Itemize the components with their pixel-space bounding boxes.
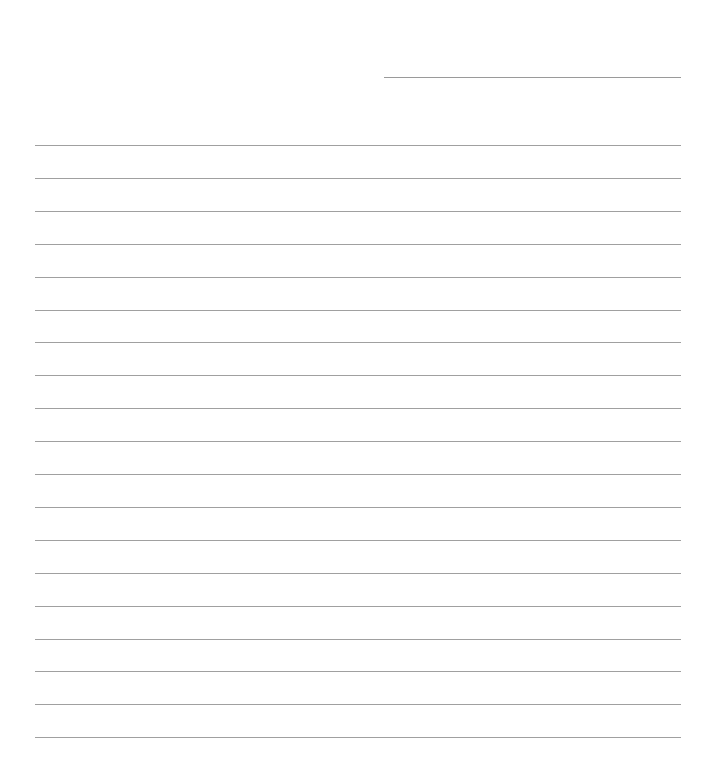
- ruled-line: [35, 474, 681, 475]
- ruled-line: [35, 639, 681, 640]
- ruled-line: [35, 408, 681, 409]
- ruled-line: [35, 507, 681, 508]
- ruled-line: [35, 540, 681, 541]
- ruled-line: [35, 704, 681, 705]
- ruled-line: [35, 441, 681, 442]
- header-line: [384, 77, 681, 78]
- ruled-line: [35, 277, 681, 278]
- ruled-line: [35, 606, 681, 607]
- ruled-line: [35, 573, 681, 574]
- ruled-line: [35, 671, 681, 672]
- ruled-line: [35, 211, 681, 212]
- ruled-line: [35, 178, 681, 179]
- ruled-line: [35, 145, 681, 146]
- ruled-line: [35, 375, 681, 376]
- ruled-line: [35, 244, 681, 245]
- ruled-line: [35, 310, 681, 311]
- ruled-line: [35, 737, 681, 738]
- ruled-line: [35, 342, 681, 343]
